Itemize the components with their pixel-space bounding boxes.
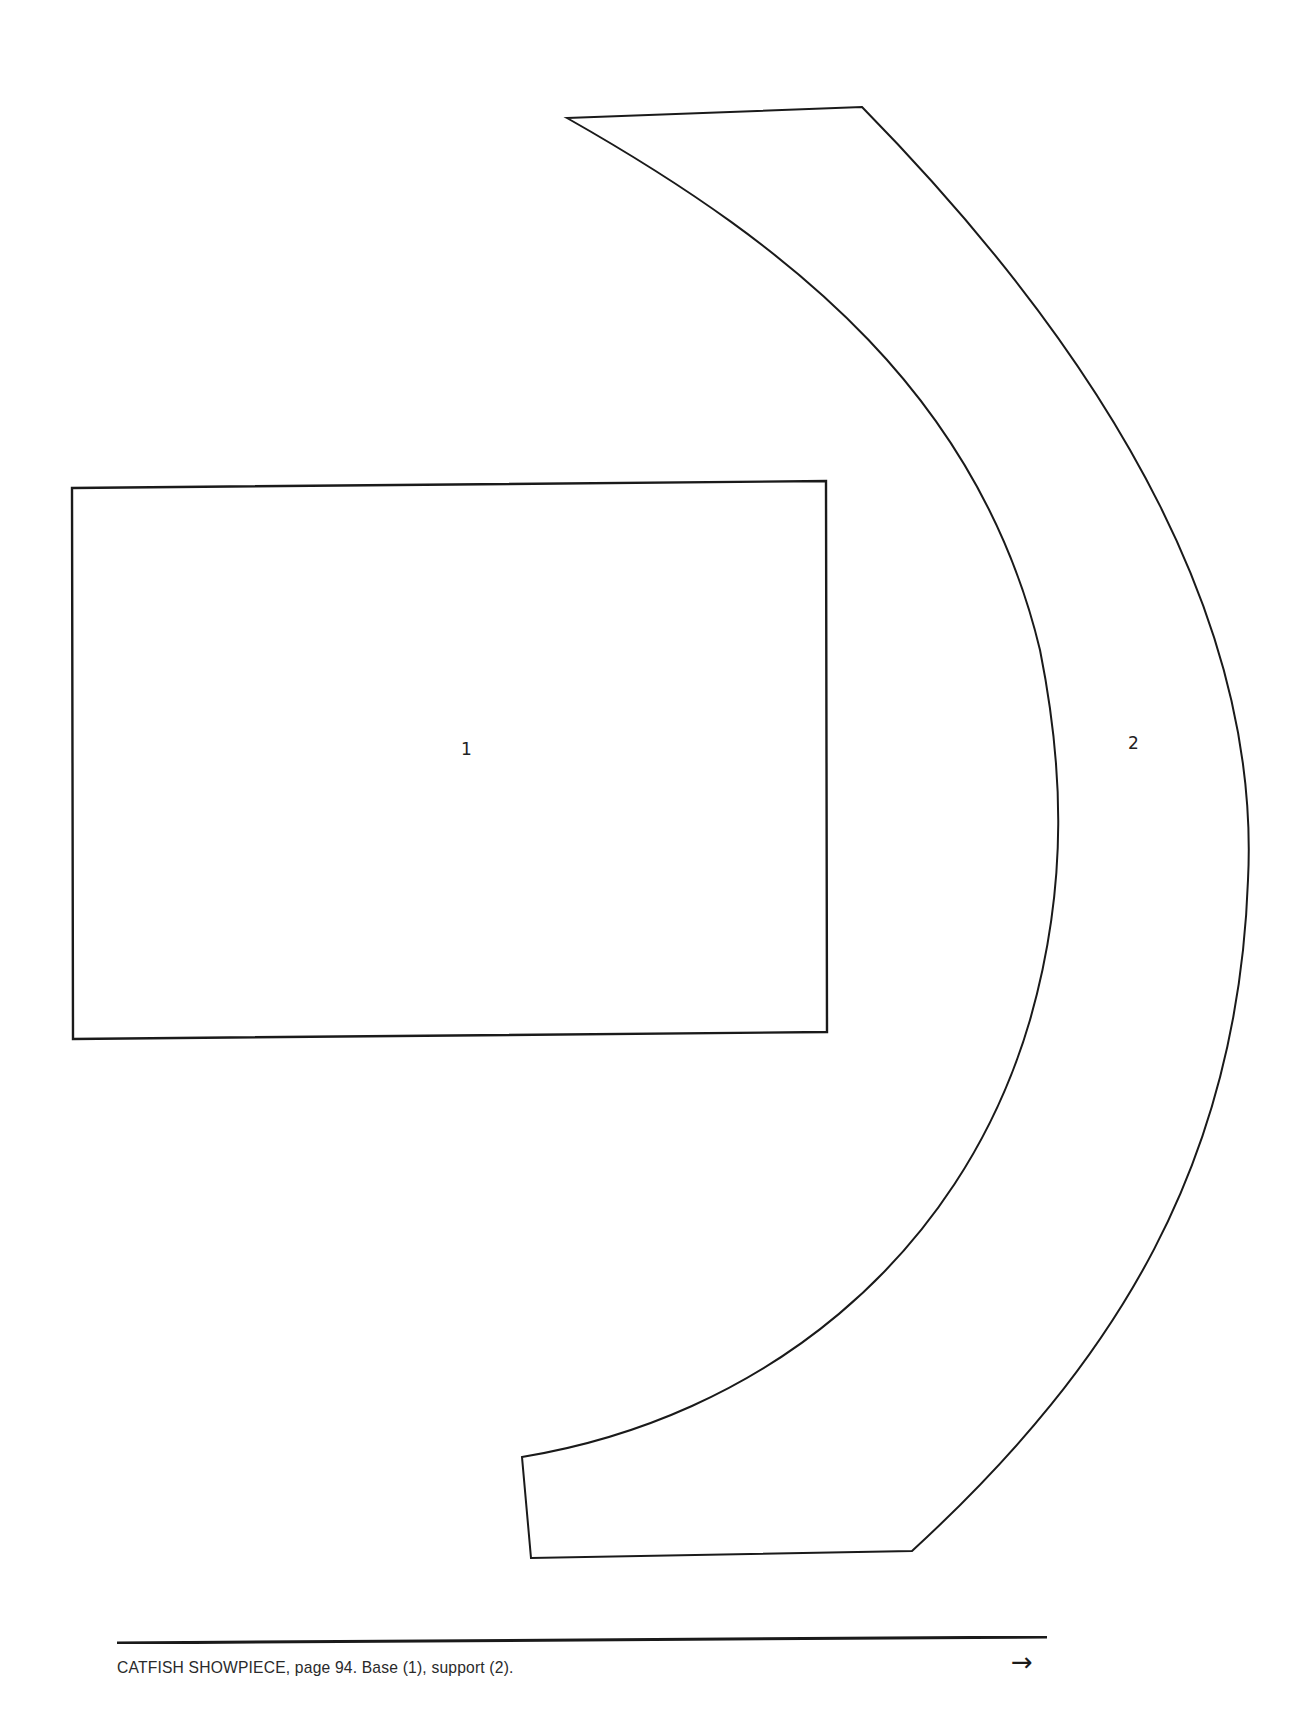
template-page: 1 2 CATFISH SHOWPIECE, page 94. Base (1)…	[0, 0, 1294, 1715]
piece-2-support-outline	[522, 107, 1249, 1558]
footer-divider	[117, 1636, 1047, 1644]
page-caption: CATFISH SHOWPIECE, page 94. Base (1), su…	[117, 1658, 514, 1678]
pattern-drawing	[0, 0, 1294, 1715]
piece-2-label: 2	[1128, 735, 1139, 752]
piece-1-label: 1	[461, 741, 472, 758]
arrow-right-icon: →	[1011, 1649, 1033, 1675]
piece-1-base-outline	[72, 481, 827, 1039]
